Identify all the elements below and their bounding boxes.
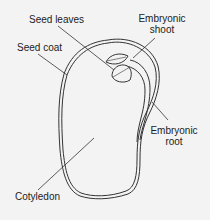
leader-seed-leaves (58, 26, 114, 70)
label-embryonic-shoot: Embryonic shoot (134, 13, 190, 35)
leader-seed-coat (38, 54, 67, 75)
label-embryonic-shoot-line2: shoot (134, 24, 190, 35)
seed-coat-outline-inner (62, 42, 156, 196)
label-cotyledon: Cotyledon (15, 191, 60, 202)
seed-leaf-2 (112, 65, 131, 82)
label-embryonic-root: Embryonic root (148, 125, 200, 147)
label-seed-coat: Seed coat (17, 42, 62, 53)
label-embryonic-root-line1: Embryonic (148, 125, 200, 136)
label-embryonic-shoot-line1: Embryonic (134, 13, 190, 24)
leader-embryonic-root (152, 102, 168, 120)
label-seed-leaves: Seed leaves (29, 14, 84, 25)
leader-cotyledon (38, 138, 94, 190)
leader-embryonic-shoot (133, 38, 155, 58)
label-embryonic-root-line2: root (148, 136, 200, 147)
